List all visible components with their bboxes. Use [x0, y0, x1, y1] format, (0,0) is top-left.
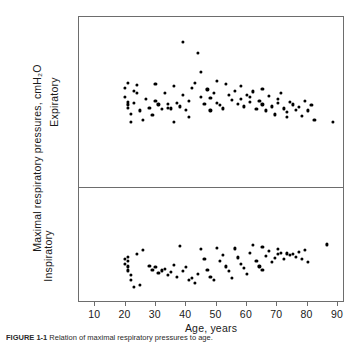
- x-axis-tick: [155, 301, 156, 306]
- plot-frame: 04080120160200240 −120−80−400 1020304050…: [78, 16, 344, 302]
- x-axis-tick: [246, 301, 247, 306]
- x-axis-label: 90: [331, 308, 343, 320]
- x-axis-label: 60: [240, 308, 252, 320]
- x-axis-tick: [185, 301, 186, 306]
- x-axis-label: 30: [149, 308, 161, 320]
- x-axis-label: 50: [210, 308, 222, 320]
- x-axis-tick: [94, 301, 95, 306]
- figure-caption: FIGURE 1-1 Relation of maximal respirato…: [6, 333, 351, 342]
- x-axis-tick: [276, 301, 277, 306]
- x-axis-tick: [337, 301, 338, 306]
- x-axis-label: 40: [179, 308, 191, 320]
- figure-container: 04080120160200240 −120−80−400 1020304050…: [0, 0, 357, 342]
- panel-title-inspiratory: Inspiratory: [42, 196, 54, 316]
- x-axis-label: 80: [301, 308, 313, 320]
- figure-caption-label: FIGURE 1-1: [6, 333, 47, 342]
- x-axis-tick: [307, 301, 308, 306]
- panel-divider: [78, 187, 344, 188]
- x-axis-tick: [216, 301, 217, 306]
- figure-caption-text: Relation of maximal respiratory pressure…: [49, 333, 212, 342]
- panel-title-expiratory: Expiratory: [48, 42, 60, 162]
- x-axis-label: 70: [270, 308, 282, 320]
- x-axis-label: 10: [88, 308, 100, 320]
- x-axis-label: 20: [118, 308, 130, 320]
- x-axis-tick: [125, 301, 126, 306]
- x-axis-ticks: 102030405060708090: [79, 17, 343, 301]
